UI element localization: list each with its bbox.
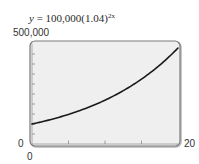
plot-frame <box>30 41 180 146</box>
plot-area <box>0 0 199 164</box>
